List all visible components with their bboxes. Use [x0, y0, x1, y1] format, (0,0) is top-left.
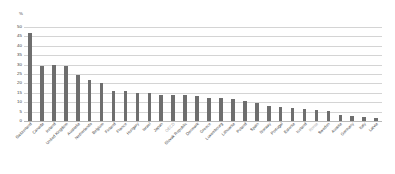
y-tick-label: 15: [17, 91, 22, 95]
bar: [207, 98, 211, 122]
axis-unit-label: %: [19, 12, 23, 16]
bar: [148, 93, 152, 121]
bar-slot: [60, 27, 72, 121]
y-tick-label: 45: [17, 34, 22, 38]
bar-slot: [334, 27, 346, 121]
y-tick-label: 20: [17, 81, 22, 85]
bar-slot: [48, 27, 60, 121]
bar-slot: [96, 27, 108, 121]
bar-slot: [167, 27, 179, 121]
y-tick-label: 40: [17, 44, 22, 48]
bar-slot: [203, 27, 215, 121]
bar-slot: [36, 27, 48, 121]
bar: [28, 33, 32, 121]
bar: [267, 106, 271, 121]
bar: [159, 95, 163, 121]
bar-slot: [131, 27, 143, 121]
x-label-slot: Germany: [346, 122, 358, 172]
bar-slot: [311, 27, 323, 121]
bar-slot: [346, 27, 358, 121]
bar-slot: [239, 27, 251, 121]
y-tick-label: 10: [17, 100, 22, 104]
bar: [255, 103, 259, 121]
bar: [231, 99, 235, 121]
bar-slot: [84, 27, 96, 121]
bar-slot: [179, 27, 191, 121]
bar-slot: [358, 27, 370, 121]
bar: [100, 83, 104, 121]
bar-slot: [191, 27, 203, 121]
bar-slot: [215, 27, 227, 121]
plot-area: 50454035302520151050: [24, 27, 382, 121]
bar: [243, 101, 247, 121]
bar: [64, 66, 68, 121]
x-tick-label: Latvia: [368, 122, 379, 133]
y-tick-label: 35: [17, 53, 22, 57]
bar: [112, 91, 116, 121]
y-tick-label: 5: [20, 109, 22, 113]
bar: [76, 75, 80, 121]
bar: [315, 110, 319, 121]
bar: [136, 93, 140, 121]
x-tick-label: Italy: [359, 122, 367, 130]
y-tick-label: 25: [17, 72, 22, 76]
y-tick-label: 50: [17, 25, 22, 29]
y-tick-label: 0: [20, 119, 22, 123]
bar-slot: [143, 27, 155, 121]
bar-chart: % 50454035302520151050 SwitzerlandCanada…: [0, 0, 395, 174]
bar-slot: [370, 27, 382, 121]
bar: [124, 91, 128, 121]
x-label-slot: Latvia: [370, 122, 382, 172]
bar: [52, 65, 56, 121]
bar: [303, 109, 307, 121]
x-tick-label: Israel: [142, 122, 152, 132]
bar-slot: [24, 27, 36, 121]
bar-slot: [120, 27, 132, 121]
bar: [327, 111, 331, 121]
bar-slot: [155, 27, 167, 121]
bar-slot: [287, 27, 299, 121]
bar-slot: [227, 27, 239, 121]
bar-slot: [275, 27, 287, 121]
bar: [183, 95, 187, 121]
bar: [171, 95, 175, 121]
bar: [88, 80, 92, 121]
bar-slot: [299, 27, 311, 121]
bar-slot: [108, 27, 120, 121]
bar: [279, 107, 283, 121]
bar: [291, 108, 295, 121]
bar: [40, 66, 44, 121]
bar-series: [24, 27, 382, 121]
bar-slot: [72, 27, 84, 121]
x-tick-label: Japan: [153, 122, 164, 133]
bar-slot: [251, 27, 263, 121]
bar: [195, 96, 199, 121]
bar-slot: [322, 27, 334, 121]
x-axis-labels: SwitzerlandCanadaIrelandUnited KingdomAu…: [24, 122, 382, 172]
bar-slot: [263, 27, 275, 121]
y-tick-label: 30: [17, 62, 22, 66]
bar: [219, 98, 223, 121]
